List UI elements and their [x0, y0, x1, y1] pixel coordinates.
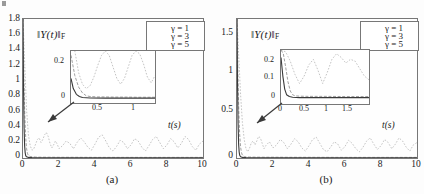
ytick-a-6: 0.6 — [0, 106, 20, 116]
legend-row-b-2[interactable]: γ = 5 — [363, 40, 415, 48]
xtick-a-1: 2 — [48, 160, 68, 170]
xaxis-title-b: t(s) — [382, 120, 395, 130]
ytick-a-8: 0.2 — [0, 136, 20, 146]
inset-a-xtick-1: 1 — [131, 104, 135, 112]
panel-a: 1.8 1.6 1.4 1.2 1 0.8 0.6 0.4 0.2 0 0 2 … — [0, 0, 212, 194]
xtick-a-0: 0 — [12, 160, 32, 170]
ytick-a-2: 1.4 — [0, 44, 20, 54]
xtick-b-2: 4 — [298, 160, 318, 170]
legend-label-b-2: γ = 5 — [385, 39, 403, 49]
ytick-a-4: 1 — [0, 75, 20, 85]
legend-label-a-2: γ = 5 — [171, 39, 189, 49]
ytick-b-1: 1 — [211, 66, 233, 76]
xtick-b-0: 0 — [226, 160, 246, 170]
panel-b: 1.5 1 0.5 0 0 2 4 6 8 10 ‖Y(t)‖F t(s) γ … — [212, 0, 424, 194]
inset-b-ytick-0: 0.2 — [264, 56, 274, 64]
inset-b-xtick-1: 0.5 — [299, 105, 309, 113]
xtick-a-3: 6 — [120, 160, 140, 170]
inset-a-ytick-0: 0.2 — [54, 57, 64, 65]
panel-caption-b: (b) — [296, 173, 356, 185]
xtick-a-2: 4 — [84, 160, 104, 170]
ytick-b-0: 1.5 — [211, 28, 233, 38]
ytick-a-1: 1.6 — [0, 29, 20, 39]
legend-a[interactable]: γ = 1 γ = 3 γ = 5 — [146, 21, 205, 51]
inset-b-xtick-2: 1 — [324, 105, 328, 113]
legend-row-a-2[interactable]: γ = 5 — [149, 40, 201, 48]
xtick-b-4: 8 — [370, 160, 390, 170]
panel-caption-a: (a) — [82, 173, 142, 185]
inset-b-xtick-3: 1.5 — [342, 105, 352, 113]
xtick-b-1: 2 — [262, 160, 282, 170]
ytick-a-5: 0.8 — [0, 90, 20, 100]
xtick-b-3: 6 — [334, 160, 354, 170]
inset-axes-b — [280, 49, 370, 105]
inset-curves-a — [71, 51, 155, 103]
legend-b[interactable]: γ = 1 γ = 3 γ = 5 — [360, 21, 419, 51]
inset-a-xtick-0: 0.5 — [92, 104, 102, 112]
norm-label-a-sub: F — [61, 32, 65, 41]
inset-a-ytick-1: 0 — [61, 92, 65, 100]
xtick-b-5: 10 — [406, 160, 424, 170]
figure-root: 1.8 1.6 1.4 1.2 1 0.8 0.6 0.4 0.2 0 0 2 … — [0, 0, 424, 194]
ytick-a-3: 1.2 — [0, 60, 20, 70]
norm-label-b: ‖Y(t)‖F — [251, 28, 279, 41]
ytick-b-2: 0.5 — [211, 105, 233, 115]
norm-label-a: ‖Y(t)‖F — [37, 28, 65, 41]
inset-pointer-arrow-a — [38, 100, 78, 128]
norm-label-b-text: ‖Y(t)‖ — [251, 28, 275, 40]
ytick-a-0: 1.8 — [0, 14, 20, 24]
inset-curves-b — [281, 50, 369, 104]
inset-axes-a — [70, 50, 156, 104]
xtick-a-5: 10 — [192, 160, 212, 170]
xtick-a-4: 8 — [156, 160, 176, 170]
inset-b-ytick-1: 0.1 — [264, 73, 274, 81]
norm-label-b-sub: F — [275, 32, 279, 41]
inset-pointer-arrow-b — [248, 101, 286, 129]
ytick-a-7: 0.4 — [0, 121, 20, 131]
norm-label-a-text: ‖Y(t)‖ — [37, 28, 61, 40]
xaxis-title-a: t(s) — [168, 120, 181, 130]
inset-b-ytick-2: 0 — [271, 92, 275, 100]
